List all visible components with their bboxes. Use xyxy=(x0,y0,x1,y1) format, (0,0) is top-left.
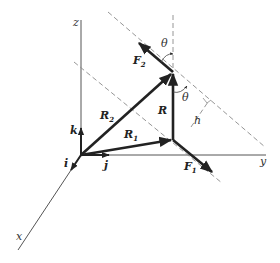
r2-label: R2 xyxy=(99,109,114,124)
theta-mid-label: θ xyxy=(182,91,189,104)
i-label: i xyxy=(64,157,68,170)
force-diagram: z y x k i j R R1 R2 F1 F2 θ θ h xyxy=(0,0,280,263)
f2-line-of-action-dashed xyxy=(108,12,265,147)
f2-label: F2 xyxy=(132,54,146,69)
theta-top-arc xyxy=(161,54,173,62)
diagram-canvas: z y x k i j R R1 R2 F1 F2 θ θ h xyxy=(0,0,280,263)
construction-lines xyxy=(74,12,265,183)
h-label: h xyxy=(194,114,201,127)
y-axis-label: y xyxy=(259,155,267,168)
f1-label: F1 xyxy=(183,160,197,175)
right-angle-mark xyxy=(203,98,211,103)
r1-label: R1 xyxy=(123,128,138,143)
r-label: R xyxy=(157,104,167,117)
j-label: j xyxy=(102,159,108,172)
theta-top-label: θ xyxy=(161,37,168,50)
i-vector xyxy=(71,155,81,170)
axes xyxy=(18,20,266,250)
k-label: k xyxy=(70,124,78,137)
x-axis-label: x xyxy=(16,230,23,243)
z-axis-label: z xyxy=(72,16,79,29)
vectors xyxy=(81,43,212,172)
